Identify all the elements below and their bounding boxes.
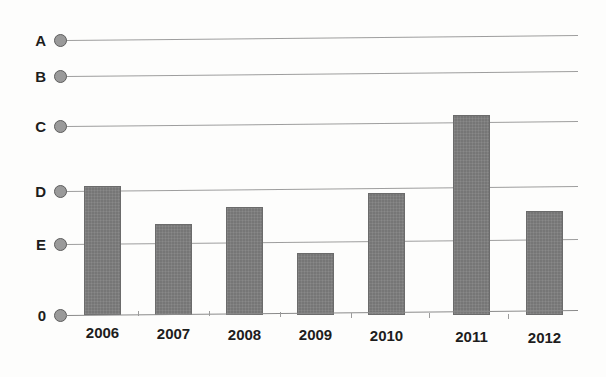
x-axis-tick [209,311,210,316]
plot-area: ABCDE0 2006200720082009201020112012 [0,0,606,377]
bar-2006 [84,186,121,315]
x-axis-label-2007: 2007 [144,326,204,341]
y-axis-marker-a [54,34,67,47]
gridline-b [66,71,578,77]
x-axis-tick [138,311,139,316]
y-axis-marker-b [54,70,67,83]
x-axis-label-2012: 2012 [515,330,575,345]
gridline-a [66,35,578,41]
y-axis-marker-d [54,185,67,198]
gridline-c [66,121,578,127]
y-axis-label-c: C [24,119,46,134]
x-axis-label-2010: 2010 [357,328,417,343]
y-axis-label-e: E [24,237,46,252]
bar-2011 [453,115,490,315]
x-axis-label-2009: 2009 [286,327,346,342]
y-axis-label-a: A [24,33,46,48]
x-axis-label-2008: 2008 [215,327,275,342]
bar-2008 [226,207,263,315]
x-axis-tick [508,314,509,319]
bar-2012 [526,211,563,315]
x-axis-label-2011: 2011 [442,329,502,344]
y-axis-label-0: 0 [24,308,46,323]
x-axis-tick [429,313,430,318]
y-axis-label-b: B [24,69,46,84]
y-axis-marker-c [54,120,67,133]
bar-2009 [297,253,334,315]
y-axis-marker-e [54,238,67,251]
gridline-d [66,186,578,192]
y-axis-label-d: D [24,184,46,199]
bar-chart: ABCDE0 2006200720082009201020112012 [0,0,606,377]
x-axis-tick [351,313,352,318]
x-axis-label-2006: 2006 [73,325,133,340]
x-axis-tick [280,312,281,317]
bar-2010 [368,193,405,315]
bar-2007 [155,224,192,315]
gridline-e [66,239,578,245]
